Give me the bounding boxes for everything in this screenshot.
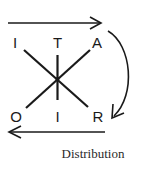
caption: Distribution — [62, 146, 125, 161]
curved-arrow — [108, 31, 128, 118]
label-top-right: A — [92, 34, 102, 51]
bottom-arrow — [9, 126, 105, 138]
label-bottom-left: O — [10, 108, 22, 125]
label-top-left: I — [13, 34, 17, 51]
label-top-center: T — [53, 34, 62, 51]
top-arrow — [8, 17, 101, 29]
cross-lines — [24, 50, 90, 108]
itaoir-diagram: I T A O I R Distribution — [0, 0, 142, 172]
label-bottom-right: R — [93, 108, 104, 125]
label-bottom-center: I — [55, 108, 59, 125]
